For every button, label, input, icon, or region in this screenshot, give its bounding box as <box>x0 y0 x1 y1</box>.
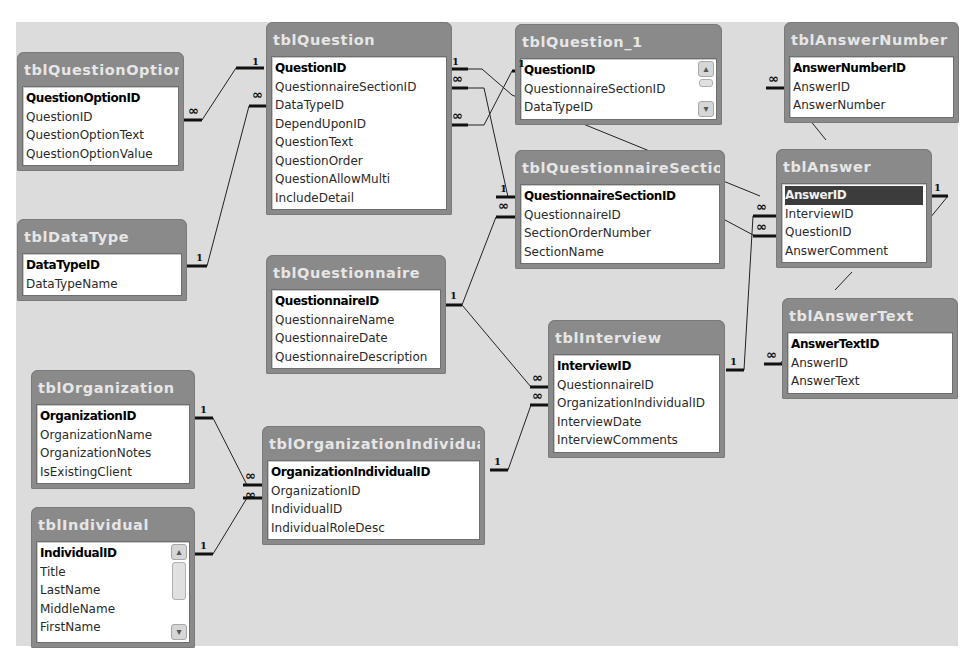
field[interactable]: InterviewDate <box>557 413 716 432</box>
primary-key-field[interactable]: AnswerID <box>785 186 923 205</box>
table-title[interactable]: tblAnswer <box>781 149 927 183</box>
field[interactable]: QuestionnaireDate <box>275 329 437 348</box>
table-tblquestion[interactable]: tblQuestionQuestionIDQuestionnaireSectio… <box>266 22 452 215</box>
field-list[interactable]: QuestionIDQuestionnaireSectionIDDataType… <box>520 58 717 120</box>
table-title[interactable]: tblInterview <box>553 320 720 354</box>
primary-key-field[interactable]: IndividualID <box>40 544 167 563</box>
field-list[interactable]: QuestionOptionIDQuestionIDQuestionOption… <box>22 86 179 166</box>
table-title[interactable]: tblQuestion_1 <box>520 24 717 58</box>
scroll-down-icon[interactable]: ▾ <box>698 101 714 117</box>
field[interactable]: DependUponID <box>275 115 443 134</box>
field[interactable]: QuestionOptionText <box>26 126 175 145</box>
field[interactable]: QuestionText <box>275 133 443 152</box>
scroll-up-icon[interactable]: ▴ <box>698 61 714 77</box>
field[interactable]: DataTypeID <box>275 96 443 115</box>
field[interactable]: Title <box>40 563 167 582</box>
field[interactable]: OrganizationNotes <box>40 444 186 463</box>
field-list[interactable]: AnswerNumberIDAnswerIDAnswerNumber <box>789 56 954 118</box>
field-list[interactable]: DataTypeIDDataTypeName <box>22 253 182 296</box>
field[interactable]: AnswerID <box>791 354 949 373</box>
field-list[interactable]: QuestionnaireIDQuestionnaireNameQuestion… <box>271 289 441 369</box>
table-tblquestion_1[interactable]: tblQuestion_1QuestionIDQuestionnaireSect… <box>515 24 722 125</box>
field[interactable]: LastName <box>40 581 167 600</box>
primary-key-field[interactable]: DataTypeID <box>26 256 178 275</box>
field[interactable]: InterviewID <box>785 205 923 224</box>
table-tblinterview[interactable]: tblInterviewInterviewIDQuestionnaireIDOr… <box>548 320 725 458</box>
field-list[interactable]: OrganizationIndividualIDOrganizationIDIn… <box>267 460 480 540</box>
field[interactable]: OrganizationID <box>271 482 476 501</box>
primary-key-field[interactable]: InterviewID <box>557 357 716 376</box>
field[interactable]: IndividualID <box>271 500 476 519</box>
field[interactable]: QuestionAllowMulti <box>275 170 443 189</box>
primary-key-field[interactable]: QuestionID <box>275 59 443 78</box>
field[interactable]: AnswerText <box>791 372 949 391</box>
field-list[interactable]: AnswerIDInterviewIDQuestionIDAnswerComme… <box>781 183 927 263</box>
table-title[interactable]: tblAnswerNumber <box>789 22 954 56</box>
field[interactable]: IndividualRoleDesc <box>271 519 476 538</box>
field[interactable]: OrganizationIndividualID <box>557 394 716 413</box>
field[interactable]: DataTypeName <box>26 275 178 294</box>
table-tblindividual[interactable]: tblIndividualIndividualIDTitleLastNameMi… <box>31 507 195 648</box>
table-tblanswer[interactable]: tblAnswerAnswerIDInterviewIDQuestionIDAn… <box>776 149 932 268</box>
field[interactable]: InterviewComments <box>557 431 716 450</box>
primary-key-field[interactable]: AnswerNumberID <box>793 59 950 78</box>
scroll-down-icon[interactable]: ▾ <box>171 624 187 640</box>
field-list[interactable]: OrganizationIDOrganizationNameOrganizati… <box>36 404 190 484</box>
primary-key-field[interactable]: QuestionOptionID <box>26 89 175 108</box>
scroll-up-icon[interactable]: ▴ <box>171 544 187 560</box>
field-list[interactable]: IndividualIDTitleLastNameMiddleNameFirst… <box>36 541 190 643</box>
field[interactable]: QuestionnaireSectionID <box>275 78 443 97</box>
vertical-scrollbar[interactable]: ▴▾ <box>171 544 187 640</box>
field[interactable]: QuestionID <box>26 108 175 127</box>
scroll-thumb[interactable] <box>699 79 713 87</box>
field-list[interactable]: AnswerTextIDAnswerIDAnswerText <box>787 332 953 394</box>
table-tblorganization[interactable]: tblOrganizationOrganizationIDOrganizatio… <box>31 370 195 489</box>
table-tblorganizationindividual[interactable]: tblOrganizationIndividualOrganizationInd… <box>262 426 485 545</box>
table-tblanswertext[interactable]: tblAnswerTextAnswerTextIDAnswerIDAnswerT… <box>782 298 958 399</box>
field[interactable]: AnswerID <box>793 78 950 97</box>
table-tblquestionoption[interactable]: tblQuestionOptionQuestionOptionIDQuestio… <box>17 52 184 171</box>
primary-key-field[interactable]: QuestionnaireID <box>275 292 437 311</box>
primary-key-field[interactable]: QuestionID <box>524 61 694 80</box>
table-title[interactable]: tblDataType <box>22 219 182 253</box>
table-tblquestionnaire[interactable]: tblQuestionnaireQuestionnaireIDQuestionn… <box>266 255 446 374</box>
field[interactable]: IncludeDetail <box>275 189 443 208</box>
table-tbldatatype[interactable]: tblDataTypeDataTypeIDDataTypeName <box>17 219 187 301</box>
primary-key-field[interactable]: AnswerTextID <box>791 335 949 354</box>
table-title[interactable]: tblOrganization <box>36 370 190 404</box>
field[interactable]: QuestionnaireName <box>275 311 437 330</box>
field[interactable]: QuestionnaireSectionID <box>524 80 694 99</box>
field-list[interactable]: QuestionIDQuestionnaireSectionIDDataType… <box>271 56 447 210</box>
field[interactable]: QuestionnaireID <box>524 206 716 225</box>
field[interactable]: QuestionnaireDescription <box>275 348 437 367</box>
field-list[interactable]: QuestionnaireSectionIDQuestionnaireIDSec… <box>520 184 720 264</box>
field[interactable]: AnswerNumber <box>793 96 950 115</box>
scroll-thumb[interactable] <box>172 562 186 600</box>
field[interactable]: QuestionOrder <box>275 152 443 171</box>
table-title[interactable]: tblOrganizationIndividual <box>267 426 480 460</box>
table-title[interactable]: tblQuestionnaireSection <box>520 150 720 184</box>
table-title[interactable]: tblQuestionnaire <box>271 255 441 289</box>
table-title[interactable]: tblAnswerText <box>787 298 953 332</box>
table-title[interactable]: tblQuestionOption <box>22 52 179 86</box>
table-tblquestionnairesection[interactable]: tblQuestionnaireSectionQuestionnaireSect… <box>515 150 725 269</box>
field[interactable]: IsExistingClient <box>40 463 186 482</box>
table-tblanswernumber[interactable]: tblAnswerNumberAnswerNumberIDAnswerIDAns… <box>784 22 959 123</box>
field[interactable]: DataTypeID <box>524 98 694 117</box>
field[interactable]: MiddleName <box>40 600 167 619</box>
table-title[interactable]: tblIndividual <box>36 507 190 541</box>
field[interactable]: QuestionOptionValue <box>26 145 175 164</box>
primary-key-field[interactable]: QuestionnaireSectionID <box>524 187 716 206</box>
field[interactable]: FirstName <box>40 618 167 637</box>
field-list[interactable]: InterviewIDQuestionnaireIDOrganizationIn… <box>553 354 720 453</box>
table-title[interactable]: tblQuestion <box>271 22 447 56</box>
field[interactable]: SectionName <box>524 243 716 262</box>
vertical-scrollbar[interactable]: ▴▾ <box>698 61 714 117</box>
field[interactable]: QuestionnaireID <box>557 376 716 395</box>
primary-key-field[interactable]: OrganizationIndividualID <box>271 463 476 482</box>
field[interactable]: SectionOrderNumber <box>524 224 716 243</box>
field[interactable]: AnswerComment <box>785 242 923 261</box>
field[interactable]: QuestionID <box>785 223 923 242</box>
field[interactable]: OrganizationName <box>40 426 186 445</box>
primary-key-field[interactable]: OrganizationID <box>40 407 186 426</box>
